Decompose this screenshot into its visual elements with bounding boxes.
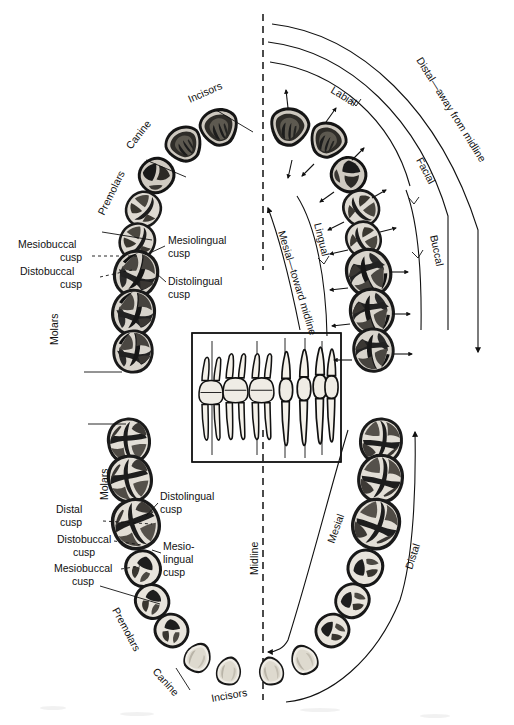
label-d-cusp-lower-l2: cusp: [60, 516, 82, 528]
label-dl-cusp-upper-l1: Distolingual: [168, 275, 222, 287]
tooth-u-right-central-incisor: [266, 104, 314, 151]
figure-canvas: Midline: [0, 0, 514, 725]
label-ml-cusp-lower-l2: lingual: [163, 553, 193, 565]
label-db-cusp-upper-l2: cusp: [60, 278, 82, 290]
label-dl-cusp-lower-l2: cusp: [160, 503, 182, 515]
tooth-l-right-first-molar: [344, 491, 408, 557]
label-facial: Facial: [414, 155, 438, 185]
label-distal-away: Distal—away from midline: [414, 55, 489, 164]
inset-tooth-premolar-2: [279, 351, 292, 445]
dental-arch-diagram: Midline: [0, 0, 514, 725]
inset-tooth-incisor: [325, 349, 338, 442]
arc-buccal: [406, 190, 421, 330]
label-dl-cusp-upper-l2: cusp: [168, 288, 190, 300]
label-ml-cusp-upper-l2: cusp: [168, 247, 190, 259]
label-mb-cusp-upper-l2: cusp: [60, 251, 82, 263]
tooth-u-right-third-molar: [349, 325, 397, 376]
scan-artifact: [40, 706, 66, 710]
inset-tooth-premolar-1: [297, 349, 311, 445]
tooth-u-left-third-molar: [110, 327, 156, 375]
label-mesial: Mesial: [325, 512, 347, 545]
label-db-cusp-lower-l2: cusp: [73, 546, 95, 558]
label-molars-upper: Molars: [48, 313, 60, 345]
label-ml-cusp-lower-l3: cusp: [163, 566, 185, 578]
label-incisors-lower: Incisors: [210, 686, 248, 704]
label-labial: Labial: [329, 84, 359, 109]
label-canine-upper: Canine: [123, 117, 153, 151]
label-incisors-upper: Incisors: [186, 79, 224, 105]
label-mb-cusp-lower-l2: cusp: [72, 575, 94, 587]
tooth-l-left-first-molar: [104, 491, 168, 557]
inset-tooth-canine: [313, 347, 327, 444]
label-db-cusp-lower-l1: Distobuccal: [57, 533, 111, 545]
scan-artifact: [300, 708, 340, 712]
inset-tooth-molar-3: [199, 357, 223, 440]
midline-label: Midline: [248, 542, 260, 575]
label-distal: Distal: [402, 542, 422, 571]
label-db-cusp-upper-l1: Distobuccal: [20, 265, 74, 277]
tooth-l-right-lateral-incisor: [285, 640, 322, 679]
label-premolars-upper: Premolars: [95, 169, 127, 217]
label-dl-cusp-lower-l1: Distolingual: [160, 490, 214, 502]
label-d-cusp-lower-l1: Distal: [56, 503, 82, 515]
label-ml-cusp-upper-l1: Mesiolingual: [168, 234, 226, 246]
label-buccal: Buccal: [428, 234, 446, 267]
tooth-l-right-central-incisor: [256, 654, 287, 688]
label-premolars-lower: Premolars: [110, 605, 143, 653]
lateral-profile-inset: [192, 333, 341, 462]
tooth-l-left-central-incisor: [214, 654, 245, 688]
label-molars-lower: Molars: [98, 468, 110, 500]
label-mb-cusp-upper-l1: Mesiobuccal: [18, 238, 76, 250]
label-ml-cusp-lower-l1: Mesio-: [163, 540, 195, 552]
tooth-l-left-lateral-incisor: [179, 638, 216, 677]
tooth-u-left-central-incisor: [195, 104, 243, 151]
scan-artifact: [120, 712, 154, 716]
label-mb-cusp-lower-l1: Mesiobuccal: [54, 562, 112, 574]
mandibular-right-quadrant: [256, 415, 409, 687]
inset-tooth-molar-1: [249, 354, 274, 440]
scan-artifact: [420, 714, 450, 718]
inset-tooth-molar-2: [223, 354, 248, 440]
